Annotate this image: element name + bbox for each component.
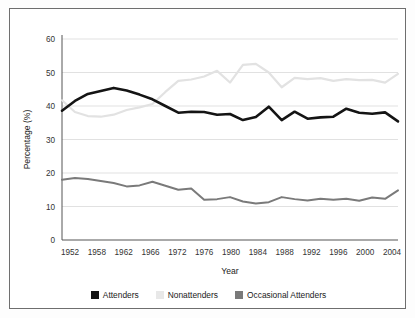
x-tick-label: 1958 <box>88 248 107 257</box>
chart-legend: AttendersNonattendersOccasional Attender… <box>10 290 407 300</box>
legend-swatch-icon <box>235 291 243 299</box>
legend-item[interactable]: Occasional Attenders <box>235 290 326 300</box>
y-tick-label: 0 <box>50 236 55 245</box>
series-line-occasional-attenders <box>62 178 398 203</box>
y-tick-label: 20 <box>46 169 56 178</box>
y-tick-label: 40 <box>46 102 56 111</box>
x-tick-label: 1980 <box>222 248 241 257</box>
line-chart-svg: 0102030405060 19521958196219661972197619… <box>10 9 407 310</box>
x-tick-label: 1988 <box>276 248 295 257</box>
legend-label: Occasional Attenders <box>247 290 326 300</box>
x-tick-label: 1996 <box>329 248 348 257</box>
x-tick-label: 1966 <box>141 248 160 257</box>
x-tick-label: 1992 <box>302 248 321 257</box>
legend-label: Nonattenders <box>168 290 218 300</box>
y-tick-labels-group: 0102030405060 <box>46 35 56 245</box>
chart-figure: 0102030405060 19521958196219661972197619… <box>0 0 415 318</box>
y-tick-label: 10 <box>46 203 56 212</box>
x-axis-title: Year <box>221 266 239 276</box>
series-line-attenders <box>62 88 398 122</box>
series-lines-group <box>62 64 398 204</box>
x-tick-label: 1952 <box>61 248 80 257</box>
x-tick-label: 2000 <box>356 248 375 257</box>
x-tick-label: 1962 <box>115 248 134 257</box>
gridlines-group <box>62 39 398 207</box>
plot-area-wrapper: 0102030405060 19521958196219661972197619… <box>10 9 407 310</box>
axes-group <box>62 35 398 240</box>
chart-frame: 0102030405060 19521958196219661972197619… <box>9 8 406 309</box>
legend-swatch-icon <box>156 291 164 299</box>
legend-label: Attenders <box>103 290 139 300</box>
y-tick-label: 30 <box>46 136 56 145</box>
x-tick-label: 2004 <box>383 248 402 257</box>
y-axis-title: Percentage (%) <box>22 110 32 170</box>
legend-swatch-icon <box>91 291 99 299</box>
x-tick-label: 1972 <box>168 248 187 257</box>
y-tick-label: 60 <box>46 35 56 44</box>
y-tick-label: 50 <box>46 69 56 78</box>
legend-item[interactable]: Nonattenders <box>156 290 218 300</box>
x-tick-labels-group: 1952195819621966197219761980198419881992… <box>61 248 402 257</box>
x-tick-label: 1984 <box>249 248 268 257</box>
legend-item[interactable]: Attenders <box>91 290 139 300</box>
x-tick-label: 1976 <box>195 248 214 257</box>
